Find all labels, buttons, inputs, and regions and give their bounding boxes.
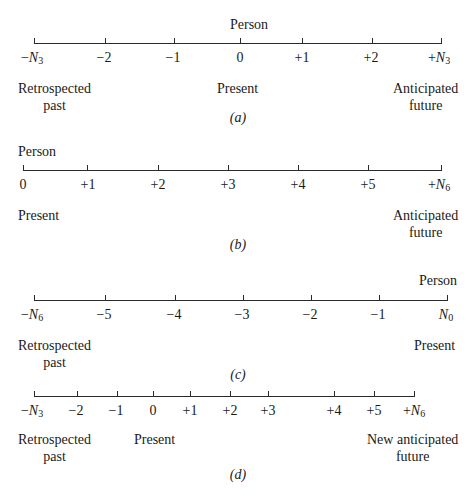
present-label: Present <box>217 80 258 97</box>
retrospected-past-label: Retrospectedpast <box>18 337 91 371</box>
tick-label: +N3 <box>428 50 450 69</box>
person-label: Person <box>18 143 56 160</box>
tick <box>77 391 78 397</box>
tick <box>105 295 106 301</box>
tick <box>372 38 373 44</box>
tick-label: −4 <box>167 307 182 323</box>
tick-label: −N3 <box>21 50 43 69</box>
present-label: Present <box>134 431 175 448</box>
tick <box>441 165 442 171</box>
tick <box>105 38 106 44</box>
anticipated-future-label: Anticipatedfuture <box>393 80 458 114</box>
tick <box>34 391 35 397</box>
tick <box>243 295 244 301</box>
tick <box>441 38 442 44</box>
tick <box>311 295 312 301</box>
tick <box>447 295 448 301</box>
tick <box>175 295 176 301</box>
tick-label: +2 <box>223 403 238 419</box>
tick-label: +1 <box>183 403 198 419</box>
tick-label: −5 <box>97 307 112 323</box>
person-label: Person <box>230 16 268 33</box>
tick <box>228 165 229 171</box>
present-label: Present <box>414 337 455 354</box>
tick <box>34 295 35 301</box>
timeline-d: −N3 −2 −1 0 +1 +2 +3 +4 +5 +N6 Retrospec… <box>0 375 473 497</box>
tick-label: +N6 <box>428 177 450 196</box>
caption-a: (a) <box>230 110 246 126</box>
tick <box>379 295 380 301</box>
tick-label: −N6 <box>21 307 43 326</box>
tick <box>368 165 369 171</box>
axis-line <box>34 43 442 44</box>
tick <box>34 38 35 44</box>
tick-label: +4 <box>291 177 306 193</box>
tick-label: −1 <box>109 403 124 419</box>
caption-d: (d) <box>230 467 246 483</box>
axis-line <box>34 300 448 301</box>
tick-label: 0 <box>20 177 27 193</box>
tick-label: −1 <box>371 307 386 323</box>
tick-label: N0 <box>439 307 453 326</box>
tick <box>240 38 241 44</box>
anticipated-future-label: Anticipatedfuture <box>393 207 458 241</box>
present-label: Present <box>18 207 59 224</box>
axis-line <box>23 170 442 171</box>
tick <box>374 391 375 397</box>
tick-label: −N3 <box>21 403 43 422</box>
tick-label: +3 <box>261 403 276 419</box>
tick-label: −2 <box>303 307 318 323</box>
tick <box>174 38 175 44</box>
tick-label: +2 <box>151 177 166 193</box>
tick <box>153 391 154 397</box>
tick-label: +2 <box>364 50 379 66</box>
axis-line <box>34 396 415 397</box>
tick-label: 0 <box>150 403 157 419</box>
tick <box>190 391 191 397</box>
tick-label: +N6 <box>403 403 425 422</box>
tick-label: +3 <box>221 177 236 193</box>
retrospected-past-label: Retrospectedpast <box>18 80 91 114</box>
tick-label: −2 <box>97 50 112 66</box>
tick-label: +5 <box>367 403 382 419</box>
tick-label: −1 <box>166 50 181 66</box>
tick-label: 0 <box>237 50 244 66</box>
timeline-b: Person 0 +1 +2 +3 +4 +5 +N6 Present Anti… <box>0 125 473 250</box>
tick-label: −2 <box>69 403 84 419</box>
person-label: Person <box>419 272 457 289</box>
new-anticipated-future-label: New anticipatedfuture <box>367 431 458 465</box>
tick <box>158 165 159 171</box>
tick-label: −3 <box>235 307 250 323</box>
timeline-a: Person −N3 −2 −1 0 +1 +2 +N3 Retrospecte… <box>0 0 473 125</box>
tick <box>414 391 415 397</box>
tick <box>268 391 269 397</box>
retrospected-past-label: Retrospectedpast <box>18 431 91 465</box>
tick-label: +1 <box>81 177 96 193</box>
tick-label: +5 <box>361 177 376 193</box>
tick-label: +4 <box>327 403 342 419</box>
tick <box>230 391 231 397</box>
tick <box>87 165 88 171</box>
tick-label: +1 <box>295 50 310 66</box>
tick <box>334 391 335 397</box>
tick <box>117 391 118 397</box>
tick <box>298 165 299 171</box>
tick <box>302 38 303 44</box>
timeline-c: Person −N6 −5 −4 −3 −2 −1 N0 Retrospecte… <box>0 250 473 375</box>
tick <box>23 165 24 171</box>
